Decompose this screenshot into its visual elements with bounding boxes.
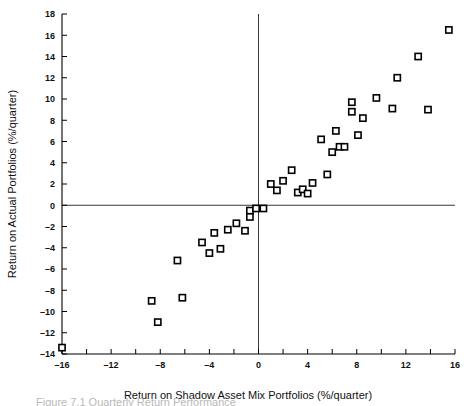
data-point-marker	[425, 107, 431, 113]
figure-caption: Figure 7.1 Quarterly Return Performance	[0, 396, 469, 406]
data-point-marker	[174, 257, 180, 263]
x-axis-tick-label: –4	[204, 360, 214, 370]
data-point-marker	[333, 128, 339, 134]
y-axis-tick-label: –4	[45, 243, 55, 253]
x-axis-tick-label: –8	[155, 360, 165, 370]
data-point-marker	[394, 75, 400, 81]
data-point-marker	[149, 298, 155, 304]
y-axis-tick-label: 2	[50, 179, 55, 189]
data-point-marker	[233, 220, 239, 226]
data-point-marker	[289, 167, 295, 173]
data-point-marker	[373, 95, 379, 101]
axes-group	[62, 14, 455, 354]
data-point-marker	[341, 144, 347, 150]
data-point-marker	[324, 171, 330, 177]
y-axis-tick-label: 4	[50, 158, 55, 168]
scatter-plot-svg: –14–12–10–8–6–4–2024681012141618–16–12–8…	[0, 0, 469, 406]
data-point-marker	[274, 187, 280, 193]
data-point-marker	[349, 109, 355, 115]
data-point-marker	[280, 178, 286, 184]
data-point-marker	[415, 53, 421, 59]
x-axis-tick-label: 0	[256, 360, 261, 370]
data-point-marker	[268, 181, 274, 187]
data-point-marker	[260, 205, 266, 211]
scatter-plot-figure: –14–12–10–8–6–4–2024681012141618–16–12–8…	[0, 0, 469, 406]
y-axis-tick-label: –2	[45, 222, 55, 232]
tick-labels-group: –14–12–10–8–6–4–2024681012141618–16–12–8…	[40, 9, 460, 370]
y-axis-tick-label: 12	[45, 73, 55, 83]
data-point-marker	[349, 99, 355, 105]
y-axis-tick-label: –10	[40, 307, 55, 317]
y-axis-tick-label: 6	[50, 137, 55, 147]
data-point-marker	[199, 239, 205, 245]
x-axis-tick-label: 12	[401, 360, 411, 370]
data-point-marker	[253, 205, 259, 211]
data-point-marker	[305, 190, 311, 196]
data-point-marker	[247, 214, 253, 220]
y-axis-tick-label: 16	[45, 31, 55, 41]
data-points-group	[59, 27, 452, 351]
data-point-marker	[247, 207, 253, 213]
y-axis-tick-label: 8	[50, 116, 55, 126]
data-point-marker	[360, 115, 366, 121]
y-axis-tick-label: 0	[50, 201, 55, 211]
y-axis-tick-label: –14	[40, 349, 55, 359]
data-point-marker	[329, 149, 335, 155]
x-axis-tick-label: –12	[104, 360, 119, 370]
data-point-marker	[309, 180, 315, 186]
data-point-marker	[389, 105, 395, 111]
data-point-marker	[446, 27, 452, 33]
y-axis-tick-label: –12	[40, 328, 55, 338]
x-axis-tick-label: 4	[305, 360, 310, 370]
y-axis-tick-label: –8	[45, 286, 55, 296]
y-axis-tick-label: 14	[45, 52, 55, 62]
data-point-marker	[206, 250, 212, 256]
data-point-marker	[217, 246, 223, 252]
data-point-marker	[59, 345, 65, 351]
data-point-marker	[355, 132, 361, 138]
y-axis-tick-label: –6	[45, 264, 55, 274]
y-axis-tick-label: 18	[45, 9, 55, 19]
data-point-marker	[179, 295, 185, 301]
data-point-marker	[242, 228, 248, 234]
x-axis-tick-label: 16	[450, 360, 460, 370]
data-point-marker	[225, 227, 231, 233]
y-axis-tick-label: 10	[45, 94, 55, 104]
y-axis-title: Return on Actual Portfolios (%/quarter)	[6, 90, 18, 278]
x-axis-tick-label: 8	[354, 360, 359, 370]
data-point-marker	[211, 230, 217, 236]
data-point-marker	[318, 136, 324, 142]
data-point-marker	[155, 319, 161, 325]
x-axis-tick-label: –16	[54, 360, 69, 370]
